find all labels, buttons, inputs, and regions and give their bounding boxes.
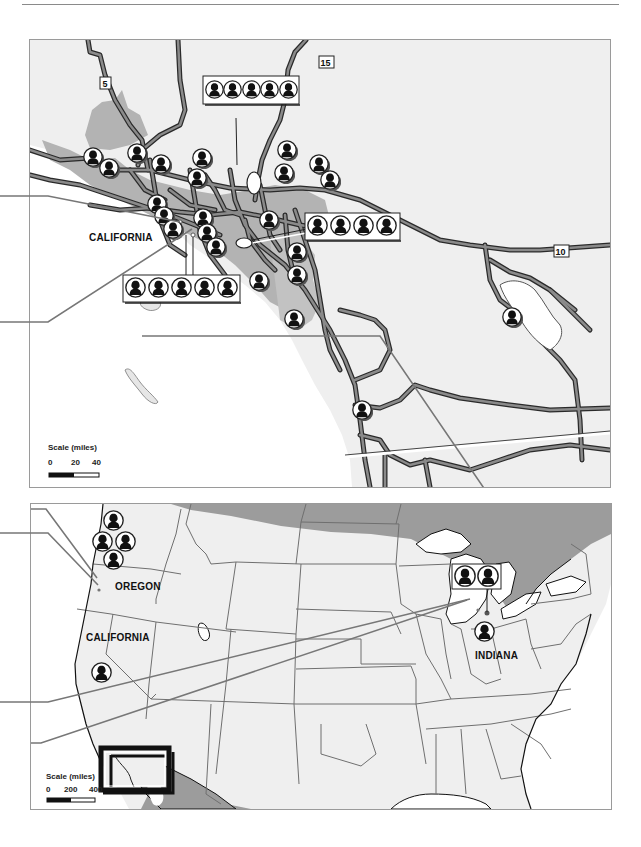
southern-california-map: 5 15 10 bbox=[29, 39, 611, 488]
person-icon bbox=[207, 238, 225, 256]
person-icon bbox=[275, 164, 293, 182]
callout-box-indiana-cluster bbox=[452, 564, 501, 589]
person-icon bbox=[503, 308, 521, 326]
person-icon bbox=[260, 211, 278, 229]
person-icon bbox=[193, 149, 211, 167]
person-icon bbox=[116, 532, 135, 551]
person-icon bbox=[206, 81, 223, 98]
person-icon bbox=[224, 81, 241, 98]
person-icon bbox=[84, 148, 102, 166]
top-divider bbox=[22, 4, 619, 5]
person-icon bbox=[280, 81, 297, 98]
highway-shield-15: 15 bbox=[319, 56, 334, 68]
person-icon bbox=[104, 511, 123, 530]
person-icon bbox=[310, 155, 328, 173]
highway-shield-10: 10 bbox=[554, 245, 569, 257]
svg-text:10: 10 bbox=[556, 247, 566, 257]
label-california: CALIFORNIA bbox=[89, 232, 153, 243]
svg-text:5: 5 bbox=[103, 79, 108, 89]
person-icon bbox=[331, 216, 350, 235]
callout-box-north-cluster bbox=[203, 76, 300, 105]
scale-tick-0: 0 bbox=[46, 785, 51, 794]
highway-shield-5: 5 bbox=[100, 77, 111, 89]
location-oval-marker bbox=[236, 238, 252, 248]
person-icon bbox=[285, 310, 303, 328]
person-icon bbox=[455, 566, 475, 586]
scale-tick-400: 400 bbox=[89, 785, 103, 794]
person-icon bbox=[288, 243, 306, 261]
callout-box-east-cluster bbox=[305, 213, 401, 241]
person-icon bbox=[278, 141, 296, 159]
scale-title: Scale (miles) bbox=[46, 772, 95, 781]
united-states-map: OREGON CALIFORNIA INDIANA Scale (miles) … bbox=[30, 503, 612, 810]
person-icon bbox=[354, 216, 373, 235]
person-icon bbox=[243, 81, 260, 98]
person-icon bbox=[93, 532, 112, 551]
scale-tick-200: 200 bbox=[64, 785, 78, 794]
us-map-svg: OREGON CALIFORNIA INDIANA Scale (miles) … bbox=[31, 504, 611, 809]
label-oregon: OREGON bbox=[115, 581, 161, 592]
location-oval-marker bbox=[247, 172, 261, 194]
person-icon bbox=[261, 81, 278, 98]
person-icon bbox=[104, 550, 123, 569]
person-icon bbox=[172, 278, 191, 297]
person-icon bbox=[149, 278, 168, 297]
person-icon bbox=[195, 278, 214, 297]
svg-text:15: 15 bbox=[321, 58, 331, 68]
person-icon bbox=[100, 159, 118, 177]
inset-locator-box bbox=[101, 748, 173, 793]
label-california: CALIFORNIA bbox=[86, 632, 150, 643]
socal-map-svg: 5 15 10 bbox=[30, 40, 610, 487]
person-icon bbox=[478, 566, 498, 586]
scale-tick-40: 40 bbox=[92, 458, 101, 467]
person-icon bbox=[377, 216, 396, 235]
person-icon bbox=[188, 169, 206, 187]
scale-tick-20: 20 bbox=[71, 458, 80, 467]
person-icon bbox=[128, 144, 146, 162]
person-icon bbox=[308, 216, 327, 235]
person-icon bbox=[164, 220, 182, 238]
person-icon bbox=[353, 401, 371, 419]
person-icon bbox=[321, 171, 339, 189]
person-icon bbox=[218, 278, 237, 297]
person-icon bbox=[288, 266, 306, 284]
scale-tick-0: 0 bbox=[48, 458, 53, 467]
person-icon bbox=[92, 663, 111, 682]
person-icon bbox=[126, 278, 145, 297]
person-icon bbox=[152, 155, 170, 173]
callout-box-central-cluster bbox=[123, 275, 241, 303]
person-icon bbox=[250, 272, 268, 290]
person-icon bbox=[475, 622, 494, 641]
label-indiana: INDIANA bbox=[475, 650, 518, 661]
scale-title: Scale (miles) bbox=[48, 443, 97, 452]
